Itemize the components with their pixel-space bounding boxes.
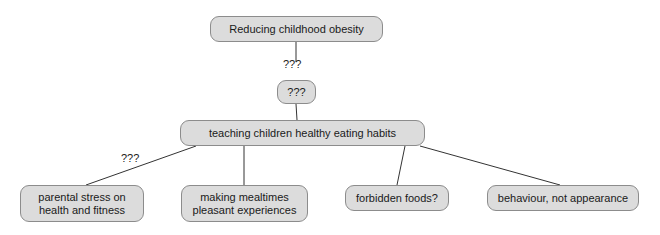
node-forbidden[interactable]: forbidden foods? bbox=[345, 185, 449, 211]
node-root[interactable]: Reducing childhood obesity bbox=[210, 16, 383, 42]
node-mealtimes[interactable]: making mealtimes pleasant experiences bbox=[181, 185, 308, 222]
concept-map-canvas: Reducing childhood obesity???teaching ch… bbox=[0, 0, 660, 235]
edge-unknown-teaching bbox=[296, 104, 297, 120]
node-behaviour[interactable]: behaviour, not appearance bbox=[487, 185, 639, 211]
node-teaching[interactable]: teaching children healthy eating habits bbox=[180, 120, 425, 146]
node-stress[interactable]: parental stress on health and fitness bbox=[20, 185, 144, 222]
edge-teaching-stress bbox=[86, 146, 196, 185]
edge-label-root-unknown: ??? bbox=[283, 58, 301, 70]
edge-teaching-forbidden bbox=[397, 146, 405, 185]
edge-label-teaching-stress: ??? bbox=[121, 152, 139, 164]
node-unknown[interactable]: ??? bbox=[277, 80, 316, 104]
edge-teaching-behaviour bbox=[420, 146, 560, 185]
